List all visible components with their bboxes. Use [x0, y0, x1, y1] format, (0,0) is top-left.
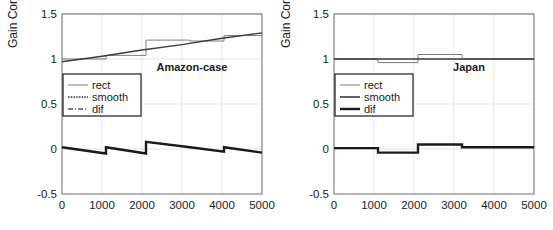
series-smooth-left — [62, 33, 262, 62]
x-tick-right-0: 0 — [331, 199, 337, 211]
x-tick-right-5000: 5000 — [521, 199, 547, 211]
panel-annotation-amazon: Amazon-case — [157, 61, 228, 73]
y-tick-right-0: 0 — [323, 143, 329, 155]
panel-annotation-japan: Japan — [453, 61, 485, 73]
x-tick-left-0: 0 — [59, 199, 65, 211]
y-tick-right-1_5: 1.5 — [313, 8, 329, 20]
x-tick-left-3000: 3000 — [169, 199, 195, 211]
x-tick-left-2000: 2000 — [129, 199, 155, 211]
legend-label-dif-left: dif — [92, 103, 105, 115]
legend-label-dif-right: dif — [364, 103, 377, 115]
x-tick-right-3000: 3000 — [441, 199, 467, 211]
figure-root: Gain Corrections 1.5 1 0.5 0 -0.5 — [0, 0, 553, 230]
x-tick-left-1000: 1000 — [89, 199, 115, 211]
y-tick-left-0_5: 0.5 — [41, 98, 57, 110]
y-tick-left-1_5: 1.5 — [41, 8, 57, 20]
series-dif-left — [62, 142, 262, 154]
legend-label-smooth-right: smooth — [364, 91, 400, 103]
legend-label-smooth-left: smooth — [92, 91, 128, 103]
x-tick-right-2000: 2000 — [401, 199, 427, 211]
chart-panel-japan: Gain Corrections 1.5 1 0.5 0 -0.5 0 1000 — [273, 0, 549, 230]
x-tick-right-4000: 4000 — [481, 199, 507, 211]
y-tick-left-0: 0 — [51, 143, 57, 155]
x-tick-right-1000: 1000 — [361, 199, 387, 211]
y-tick-left-neg0_5: -0.5 — [37, 188, 57, 200]
y-tick-right-neg0_5: -0.5 — [309, 188, 329, 200]
legend-label-rect-left: rect — [92, 79, 110, 91]
y-tick-right-0_5: 0.5 — [313, 98, 329, 110]
plot-area-left: 1.5 1 0.5 0 -0.5 0 1000 2000 3000 4000 5… — [0, 0, 276, 230]
chart-panel-amazon: Gain Corrections 1.5 1 0.5 0 -0.5 — [0, 0, 276, 230]
y-tick-left-1: 1 — [51, 53, 57, 65]
legend-label-rect-right: rect — [364, 79, 382, 91]
x-tick-left-5000: 5000 — [249, 199, 275, 211]
plot-area-right: 1.5 1 0.5 0 -0.5 0 1000 2000 3000 4000 5… — [273, 0, 553, 230]
legend-right[interactable]: rect smooth dif — [335, 74, 413, 116]
x-tick-left-4000: 4000 — [209, 199, 235, 211]
y-tick-right-1: 1 — [323, 53, 329, 65]
legend-left[interactable]: rect smooth dif — [63, 74, 141, 116]
